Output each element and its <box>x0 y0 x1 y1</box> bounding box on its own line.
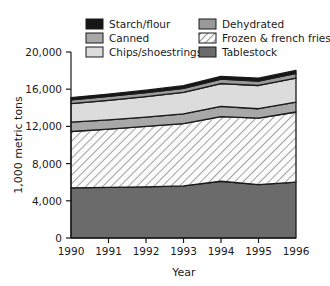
y-tick-label: 16,000 <box>25 83 62 95</box>
x-tick-label-1993: 1993 <box>170 245 197 257</box>
legend-label-tablestock: Tablestock <box>221 46 278 58</box>
x-tick-label-1990: 1990 <box>58 245 85 257</box>
chart-svg: Starch/flour Dehydrated Canned Frozen & … <box>0 0 330 286</box>
legend-swatch-chips-shoestrings <box>86 47 103 57</box>
y-tick-label: 4,000 <box>32 195 62 207</box>
stacked-area-chart: Starch/flour Dehydrated Canned Frozen & … <box>0 0 330 286</box>
legend-item-canned: Canned <box>86 32 149 44</box>
x-tick-label-1994: 1994 <box>208 245 235 257</box>
legend-item-starch-flour: Starch/flour <box>86 18 171 30</box>
y-axis-title: 1,000 metric tons <box>12 96 25 194</box>
x-tick-label-1995: 1995 <box>245 245 272 257</box>
x-tick-label-1996: 1996 <box>283 245 310 257</box>
legend-swatch-tablestock <box>199 47 216 57</box>
legend-swatch-starch-flour <box>86 19 103 29</box>
y-tick-label: 8,000 <box>32 158 62 170</box>
x-axis-title: Year <box>171 266 196 279</box>
x-axis-tick-labels: 1990199119921993199419951996 <box>58 245 310 257</box>
legend-item-dehydrated: Dehydrated <box>199 18 284 30</box>
legend-label-frozen-french-fries: Frozen & french fries <box>222 32 330 44</box>
legend-item-chips-shoestrings: Chips/shoestrings <box>86 46 202 58</box>
plot-area <box>71 70 296 238</box>
x-tick-label-1991: 1991 <box>95 245 122 257</box>
legend-label-starch-flour: Starch/flour <box>109 18 171 30</box>
legend-label-chips-shoestrings: Chips/shoestrings <box>109 46 202 58</box>
legend-label-canned: Canned <box>109 32 149 44</box>
y-tick-label: 0 <box>55 232 62 244</box>
y-tick-label: 20,000 <box>25 46 62 58</box>
legend-swatch-frozen-french-fries <box>199 33 216 43</box>
legend-item-tablestock: Tablestock <box>199 46 278 58</box>
legend-swatch-canned <box>86 33 103 43</box>
x-tick-label-1992: 1992 <box>133 245 160 257</box>
legend-label-dehydrated: Dehydrated <box>222 18 284 30</box>
legend-swatch-dehydrated <box>199 19 216 29</box>
y-tick-label: 12,000 <box>25 120 62 132</box>
area-series-tablestock <box>71 181 296 238</box>
